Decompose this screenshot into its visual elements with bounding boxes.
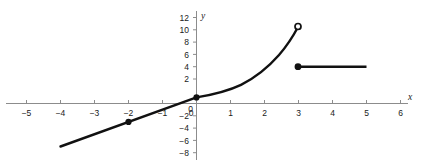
y-tick-label: −6 <box>179 136 189 146</box>
y-tick-label: 6 <box>184 50 189 60</box>
y-tick-label: 8 <box>184 37 189 47</box>
y-tick-label: 4 <box>184 62 189 72</box>
x-tick-label: 2 <box>262 108 267 118</box>
y-tick-label: 10 <box>180 25 190 35</box>
y-axis-ticks <box>193 18 197 153</box>
x-axis-label: x <box>407 92 413 102</box>
y-tick-label: 12 <box>180 13 190 23</box>
closed-point-left <box>125 119 131 125</box>
x-tick-label: 3 <box>296 108 301 118</box>
exponential-branch-curve <box>197 27 299 97</box>
x-tick-label: 5 <box>364 108 369 118</box>
y-tick-label: 2 <box>184 74 189 84</box>
x-tick-label: 4 <box>330 108 335 118</box>
open-point-curve-end <box>295 24 301 30</box>
axis-lines <box>6 11 408 160</box>
x-tick-label: 6 <box>398 108 403 118</box>
x-tick-label: −3 <box>90 108 100 118</box>
y-tick-label: −2 <box>179 111 189 121</box>
x-axis-ticks <box>27 100 401 104</box>
piecewise-function-graph: −5 −4 −3 −2 −1 0 1 2 3 4 5 6 12 10 8 6 4… <box>0 0 426 168</box>
closed-point-segment-start <box>295 63 302 70</box>
y-axis-label: y <box>200 11 206 21</box>
plot-area: −5 −4 −3 −2 −1 0 1 2 3 4 5 6 12 10 8 6 4… <box>0 0 426 168</box>
y-tick-label: −4 <box>179 123 189 133</box>
x-tick-label: −5 <box>22 108 32 118</box>
x-tick-label: −4 <box>56 108 66 118</box>
y-tick-label: −8 <box>179 148 189 158</box>
y-tick-labels: 12 10 8 6 4 2 0 −2 −4 −6 −8 <box>179 13 193 158</box>
y-tick-label: 0 <box>188 104 193 114</box>
x-tick-labels: −5 −4 −3 −2 −1 0 1 2 3 4 5 6 <box>22 108 403 118</box>
closed-point-origin <box>193 94 199 100</box>
x-tick-label: −2 <box>124 108 134 118</box>
x-tick-label: 1 <box>228 108 233 118</box>
